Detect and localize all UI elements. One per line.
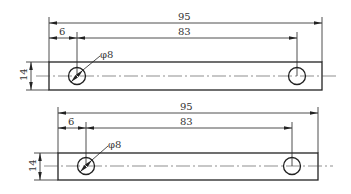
dim-text-diameter: φ8 <box>108 139 121 150</box>
dim-text-14: 14 <box>18 68 29 81</box>
drawing-top: 95 83 6 φ8 14 <box>18 11 336 90</box>
dim-text-diameter: φ8 <box>100 49 113 60</box>
dim-text-14: 14 <box>27 159 38 172</box>
dim-text-83: 83 <box>180 116 193 127</box>
dim-text-95: 95 <box>180 101 193 112</box>
dim-text-95: 95 <box>178 11 191 22</box>
dim-text-6: 6 <box>68 116 74 127</box>
technical-drawing: 95 83 6 φ8 14 95 83 6 <box>0 0 351 194</box>
dim-text-6: 6 <box>59 26 65 37</box>
drawing-bottom: 95 83 6 φ8 14 <box>27 101 333 180</box>
part-outline <box>58 153 318 180</box>
dim-text-83: 83 <box>178 26 191 37</box>
leader-line-diameter <box>83 56 100 70</box>
